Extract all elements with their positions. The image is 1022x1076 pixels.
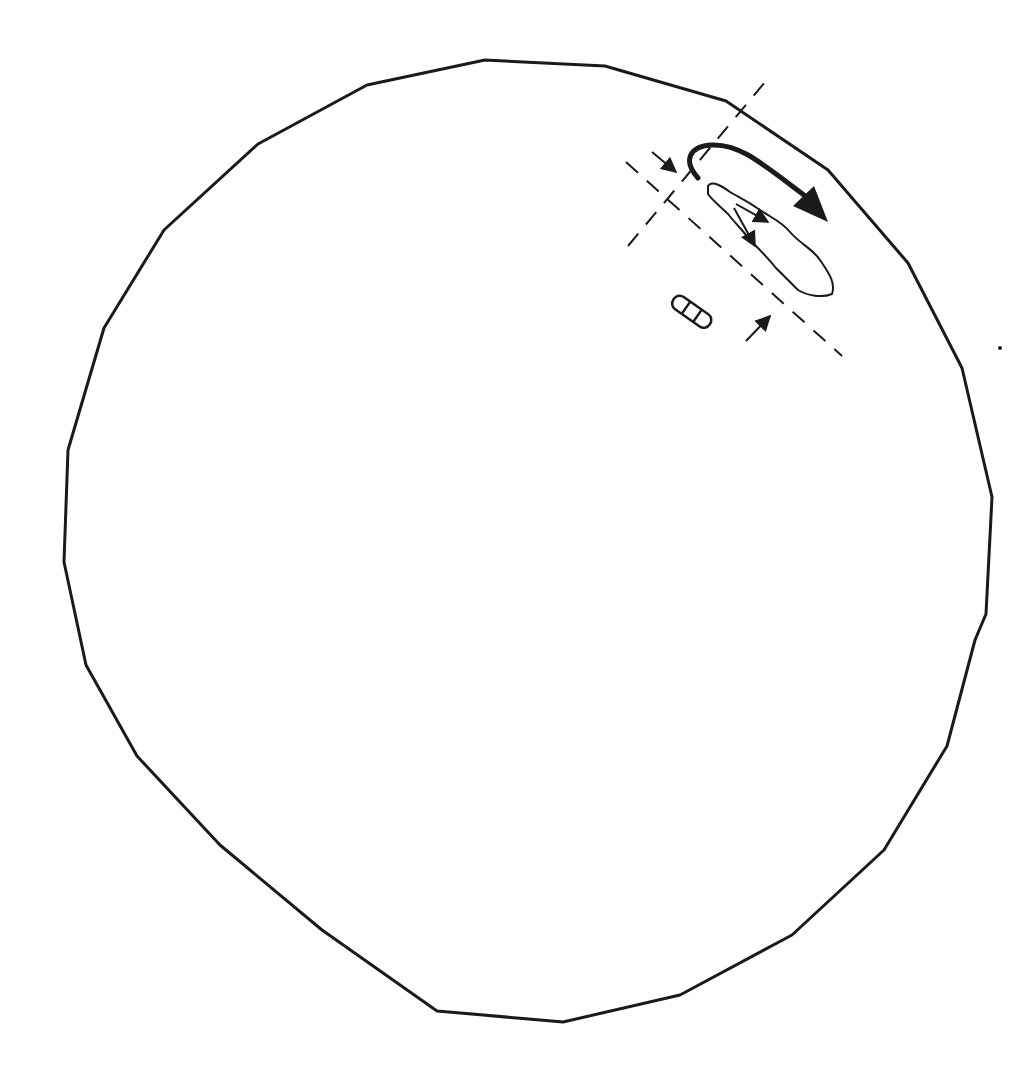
inflow-arrow-icon xyxy=(652,152,676,172)
dashed-line-cross xyxy=(628,76,770,246)
stray-dot xyxy=(998,346,1002,350)
boat-icon xyxy=(669,293,714,331)
dashed-reference-lines xyxy=(626,76,842,356)
diagram-canvas xyxy=(0,0,1022,1076)
inflow-arrow-icon xyxy=(746,316,770,341)
outer-boundary xyxy=(64,60,992,1022)
